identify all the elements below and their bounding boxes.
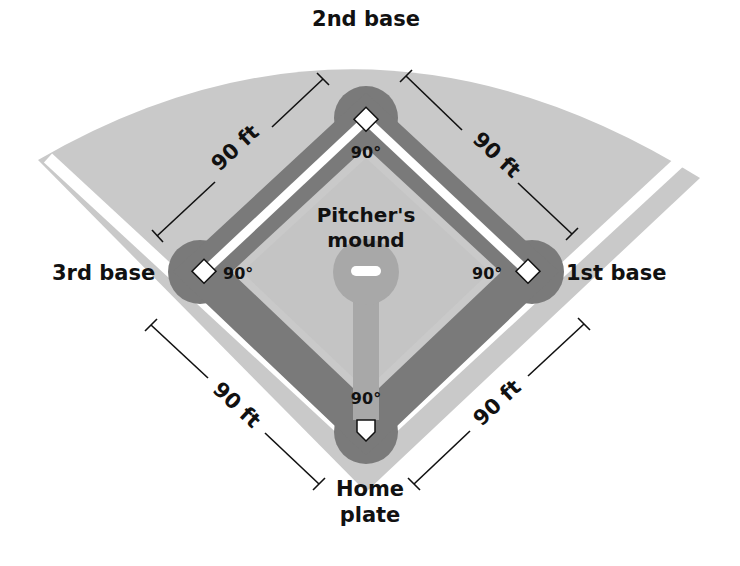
angle-label-second: 90° xyxy=(351,143,381,162)
baseball-diamond-diagram: 90 ft 90 ft 90 ft 90 ft 2nd base 3rd bas… xyxy=(0,0,740,566)
distance-label-third-to-home: 90 ft xyxy=(208,377,265,433)
angle-label-home: 90° xyxy=(351,389,381,408)
pitchers-mound-label-line1: Pitcher's xyxy=(317,203,416,227)
home-plate-label-line1: Home xyxy=(336,477,404,501)
angle-label-first: 90° xyxy=(472,264,502,283)
third-base-label: 3rd base xyxy=(52,261,155,285)
home-plate-label-line2: plate xyxy=(340,503,401,527)
pitchers-mound-label-line2: mound xyxy=(327,228,404,252)
pitchers-rubber xyxy=(351,266,381,276)
first-base-label: 1st base xyxy=(566,261,666,285)
second-base-label: 2nd base xyxy=(312,7,420,31)
angle-label-third: 90° xyxy=(223,264,253,283)
